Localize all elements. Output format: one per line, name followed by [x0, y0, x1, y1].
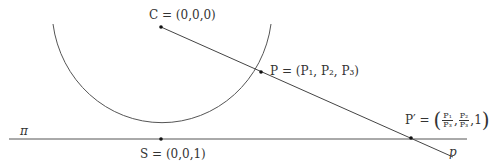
diagram-canvas: C = (0,0,0) P = (P₁, P₂, P₃) S = (0,0,1)… — [0, 0, 494, 166]
sphere-semicircle — [53, 24, 271, 123]
fraction-1: P₁P₃ — [442, 112, 453, 129]
close-paren: ) — [482, 108, 490, 132]
label-C: C = (0,0,0) — [149, 9, 216, 21]
label-plane-pi: π — [20, 125, 28, 137]
ray-p-line — [161, 27, 453, 157]
label-P-prime: P′ = (P₁P₃,P₂P₃,1) — [405, 110, 490, 130]
point-P — [259, 70, 263, 74]
point-C — [159, 25, 163, 29]
diagram-svg — [0, 0, 494, 166]
p-prime-prefix: P′ = — [405, 113, 430, 127]
point-S — [159, 137, 163, 141]
label-line-p: p — [449, 146, 457, 158]
point-P-prime — [409, 136, 413, 140]
fraction-2: P₂P₃ — [459, 112, 470, 129]
label-P: P = (P₁, P₂, P₃) — [270, 65, 359, 77]
open-paren: ( — [434, 108, 442, 132]
label-S: S = (0,0,1) — [140, 148, 206, 160]
